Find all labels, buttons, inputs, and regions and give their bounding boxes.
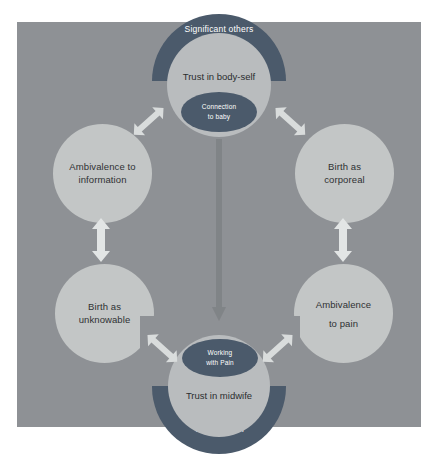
ellipse-line2: to baby [202, 112, 236, 122]
node-connection-to-baby[interactable]: Connection to baby [181, 92, 257, 132]
node-label-line2: unknowable [79, 314, 131, 326]
node-working-with-pain[interactable]: Working with Pain [182, 339, 258, 377]
ellipse-line2: with Pain [206, 358, 234, 368]
node-label-line2: corporeal [324, 174, 365, 186]
node-label: Trust in midwife [186, 390, 252, 402]
node-label-line2: to pain [316, 314, 372, 333]
arrow-body-self-to-corporeal [261, 100, 313, 150]
arrow-pain-to-midwife [255, 327, 307, 377]
ellipse-line1: Connection [202, 102, 236, 112]
arrow-center-downward [209, 139, 229, 329]
node-label-line2: information [69, 174, 135, 186]
diagram-canvas: Significant others Trust in body-self Co… [0, 0, 438, 470]
node-label: Trust in body-self [183, 71, 256, 83]
arrow-corporeal-to-pain [330, 216, 356, 264]
node-ambivalence-to-pain[interactable]: Ambivalence to pain [294, 264, 393, 363]
node-label-line1: Ambivalence [316, 295, 372, 314]
arrow-information-to-unknowable [88, 216, 114, 264]
ellipse-line1: Working [206, 348, 234, 358]
arrow-body-self-to-information [126, 100, 178, 150]
node-label-line1: Ambivalence to [69, 161, 135, 173]
node-label-line1: Birth as [79, 301, 131, 313]
arrow-unknowable-to-midwife [133, 327, 185, 377]
node-label-line1: Birth as [324, 161, 365, 173]
